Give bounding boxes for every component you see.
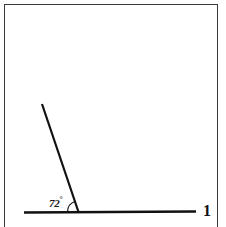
angle-diagram xyxy=(0,0,226,227)
angle-measure-label: 72° xyxy=(49,195,63,209)
figure-number-label: 1 xyxy=(203,203,211,219)
angle-value: 72 xyxy=(49,197,60,209)
horizontal-ray xyxy=(24,212,196,213)
figure-container: 72° 1 xyxy=(0,0,226,227)
degree-symbol: ° xyxy=(60,195,63,204)
angle-arc xyxy=(68,202,75,212)
